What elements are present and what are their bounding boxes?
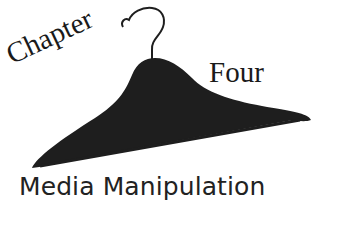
chapter-number: Four (209, 58, 264, 87)
chapter-subtitle: Media Manipulation (19, 174, 265, 199)
